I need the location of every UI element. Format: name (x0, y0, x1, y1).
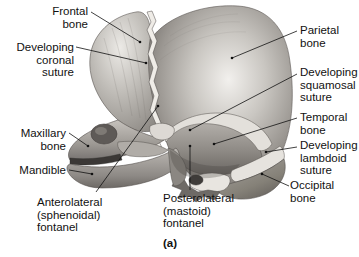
leader-dot-frontal-bone (139, 41, 142, 44)
leader-dot-developing-squamosal-suture (189, 129, 192, 132)
leader-dot-temporal-bone (213, 143, 216, 146)
skull-anatomy (67, 6, 292, 202)
leader-dot-mandible (91, 173, 94, 176)
leader-dot-posterolateral-fontanel (189, 145, 192, 148)
leader-dot-maxillary-bone (87, 145, 90, 148)
leader-dot-parietal-bone (231, 57, 234, 60)
leader-dot-anterolateral-fontanel (157, 105, 160, 108)
label-frontal-bone: Frontalbone (52, 5, 88, 30)
label-developing-coronal-suture: Developingcoronalsuture (16, 41, 74, 79)
label-parietal-bone: Parietalbone (300, 24, 339, 49)
leader-dot-developing-lambdoid-suture (265, 151, 268, 154)
figure-infant-skull: Frontalbone Developingcoronalsuture Maxi… (0, 0, 359, 257)
label-temporal-bone: Temporalbone (300, 111, 347, 136)
label-anterolateral-sphenoidal-fontanel: Anterolateral(sphenoidal)fontanel (37, 196, 102, 234)
leader-dot-developing-coronal-suture (145, 62, 148, 65)
label-mandible: Mandible (19, 164, 66, 177)
label-maxillary-bone: Maxillarybone (21, 127, 66, 152)
label-occipital-bone: Occipitalbone (290, 179, 334, 204)
label-posterolateral-mastoid-fontanel: Posterolateral(mastoid)fontanel (163, 192, 234, 230)
orbit-highlight (95, 127, 107, 135)
zygomatic-arch-shape (118, 141, 168, 156)
label-developing-lambdoid-suture: Developinglambdoidsuture (300, 139, 358, 177)
leader-dot-occipital-bone (261, 173, 264, 176)
figure-caption: (a) (163, 237, 177, 249)
label-developing-squamosal-suture: Developingsquamosalsuture (300, 66, 358, 104)
